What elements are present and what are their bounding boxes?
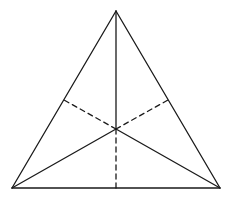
solid-segment-A-B — [12, 11, 116, 188]
dashed-segment-O-E_right — [116, 100, 168, 129]
triangle-diagram — [0, 0, 233, 200]
solid-segment-C-A — [116, 11, 220, 188]
solid-segment-O-B — [12, 129, 116, 188]
dashed-segment-O-D_left — [64, 100, 116, 129]
diagram-canvas — [0, 0, 233, 200]
solid-segment-O-C — [116, 129, 220, 188]
